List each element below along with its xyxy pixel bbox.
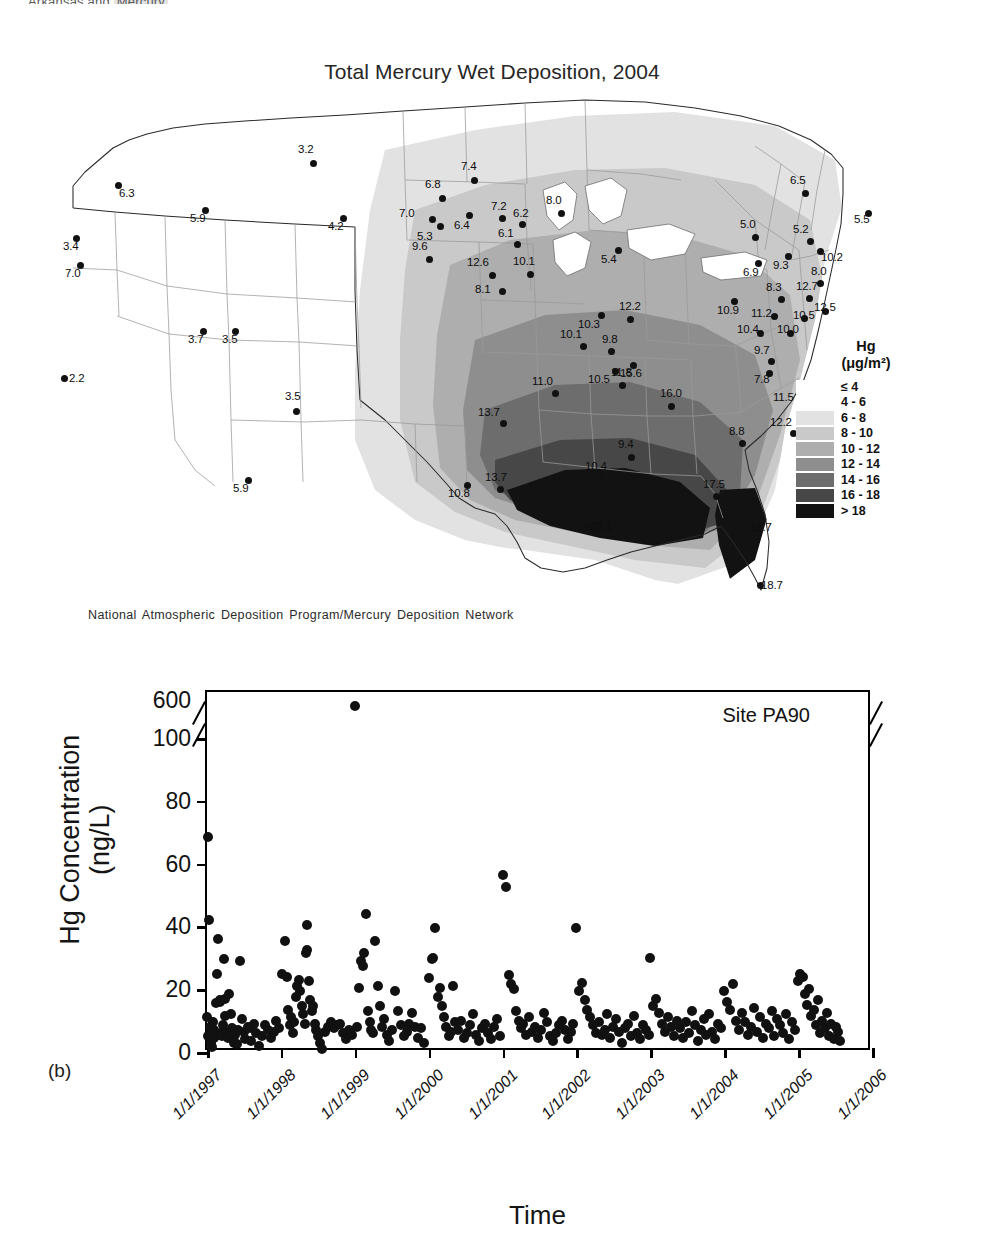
scatter-point [304,976,314,986]
site-value-label: 8.1 [475,284,490,296]
site-dot [558,210,565,217]
scatter-point [294,975,304,985]
legend-label: 14 - 16 [841,473,880,487]
running-head: Arkansas and Mercury [28,0,168,4]
scatter-point [373,981,383,991]
site-value-label: 5.0 [740,219,755,231]
scatter-point [274,1023,284,1033]
scatter-point [448,981,458,991]
site-label: Site PA90 [723,704,810,727]
site-dot [293,408,300,415]
site-dot [778,296,785,303]
site-value-label: 12.2 [770,417,792,429]
site-dot [466,212,473,219]
scatter-point [509,984,519,994]
legend-swatch [796,380,834,394]
scatter-point [219,954,229,964]
scatter-point [368,1028,378,1038]
y-axis-tick [197,864,207,867]
y-axis-tick [197,1052,207,1055]
scatter-point [790,1025,800,1035]
legend-label: 12 - 14 [841,457,880,471]
scatter-point [213,934,223,944]
legend-row: 8 - 10 [796,426,936,442]
scatter-point [375,1001,385,1011]
site-value-label: 10.8 [448,488,470,500]
scatter-point [524,1012,534,1022]
site-dot [739,440,746,447]
legend-label: 6 - 8 [841,411,866,425]
site-dot [615,247,622,254]
site-dot [771,313,778,320]
site-value-label: 11.0 [532,376,553,388]
site-dot [597,475,604,482]
y-axis-tick [197,738,207,741]
site-dot [619,382,626,389]
y-axis-tick-label: 0 [178,1039,191,1066]
y-axis-tick [197,989,207,992]
x-axis-tick-label: 1/1/2000 [391,1066,448,1123]
y-axis-title-line1: Hg Concentration [55,735,85,945]
legend-swatch [796,442,834,456]
y-axis-tick [197,926,207,929]
legend-swatch [796,458,834,472]
scatter-point [644,1030,654,1040]
scatter-point [716,1023,726,1033]
legend-swatch [796,396,834,410]
site-dot [713,493,720,500]
running-head-text: Arkansas and [28,0,110,4]
scatter-point [212,969,222,979]
site-dot [437,223,444,230]
legend-row: 12 - 14 [796,457,936,473]
legend-row: 16 - 18 [796,488,936,504]
site-value-label: 7.4 [461,161,476,173]
site-dot [608,348,615,355]
scatter-point [407,1008,417,1018]
scatter-point [416,1023,426,1033]
site-value-label: 3.7 [188,334,203,346]
scatter-point [300,1019,310,1029]
site-value-label: 10.1 [560,329,582,341]
scatter-point [350,701,360,711]
site-dot [580,343,587,350]
site-value-label: 10.9 [717,305,739,317]
panel-b-label: (b) [48,1060,71,1082]
scatter-point [203,832,213,842]
site-value-label: 5.5 [854,214,869,226]
site-dot [439,195,446,202]
site-dot [499,215,506,222]
scatter-point [424,973,434,983]
site-value-label: 12.2 [619,301,641,313]
x-axis-tick [798,1048,801,1058]
site-value-label: 6.5 [790,175,805,187]
scatter-point [645,953,655,963]
site-value-label: 11.8 [611,367,632,379]
scatter-point [617,1038,627,1048]
site-value-label: 6.4 [454,220,469,232]
scatter-point [465,1020,475,1030]
legend-swatch [796,504,834,518]
legend-row: 14 - 16 [796,472,936,488]
legend-row: 10 - 12 [796,441,936,457]
site-value-label: 3.5 [285,391,300,403]
site-dot [806,295,813,302]
site-value-label: 7.0 [65,268,80,280]
scatter-point [809,1005,819,1015]
x-axis-tick-label: 1/1/2002 [538,1066,595,1123]
panel-b-timeseries: (b) Hg Concentration (ng/L) Site PA90 60… [0,660,984,1258]
site-value-label: 10.1 [513,256,535,268]
site-dot [514,241,521,248]
map-legend: Hg (μg/m²) ≤ 44 - 66 - 88 - 1010 - 1212 … [796,338,936,519]
scatter-point [542,1017,552,1027]
y-axis-tick-label: 80 [165,787,191,814]
site-dot [628,454,635,461]
scatter-point [379,1014,389,1024]
site-value-label: 10.5 [793,310,815,322]
x-axis-title: Time [205,1200,870,1231]
x-axis-tick [503,1048,506,1058]
scatter-point [358,961,368,971]
scatter-point [758,1033,768,1043]
scatter-point [651,994,661,1004]
scatter-point [580,995,590,1005]
x-axis-tick [650,1048,653,1058]
